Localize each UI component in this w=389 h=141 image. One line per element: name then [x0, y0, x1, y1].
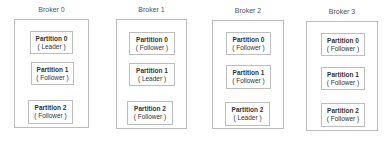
partition-0: Partition 0 ( Follower ): [226, 32, 271, 55]
broker-1: Broker 1 Partition 0 ( Follower ) Partit…: [116, 19, 187, 129]
partition-name: Partition 0: [136, 36, 168, 44]
partition-1: Partition 1 ( Follower ): [226, 65, 271, 89]
partition-name: Partition 1: [327, 71, 359, 79]
partition-role: ( Follower ): [232, 44, 265, 52]
partition-role: ( Leader ): [233, 114, 261, 122]
partition-role: ( Follower ): [34, 112, 67, 120]
partition-name: Partition 1: [37, 66, 69, 74]
partition-role: ( Follower ): [36, 74, 69, 82]
partition-role: ( Follower ): [134, 113, 167, 121]
partition-2: Partition 2 ( Follower ): [28, 100, 73, 124]
partition-0: Partition 0 ( Follower ): [129, 32, 175, 55]
partition-name: Partition 2: [327, 107, 359, 115]
partition-role: ( Leader ): [138, 75, 166, 83]
partition-name: Partition 2: [35, 104, 67, 112]
partition-2: Partition 2 ( Follower ): [127, 101, 173, 125]
broker-label: Broker 2: [213, 7, 283, 14]
broker-label: Broker 0: [15, 6, 88, 13]
partition-name: Partition 2: [232, 106, 264, 114]
partition-2: Partition 2 ( Follower ): [321, 103, 365, 127]
partition-name: Partition 1: [136, 67, 168, 75]
broker-label: Broker 3: [307, 8, 377, 15]
partition-role: ( Follower ): [136, 44, 169, 52]
partition-1: Partition 1 ( Leader ): [129, 63, 175, 86]
partition-role: ( Leader ): [37, 43, 65, 51]
partition-0: Partition 0 ( Follower ): [321, 33, 365, 56]
partition-1: Partition 1 ( Follower ): [31, 62, 74, 85]
partition-role: ( Follower ): [327, 115, 360, 123]
partition-name: Partition 2: [134, 105, 166, 113]
partition-name: Partition 0: [36, 35, 68, 43]
partition-role: ( Follower ): [232, 77, 265, 85]
broker-0: Broker 0 Partition 0 ( Leader ) Partitio…: [14, 19, 89, 128]
partition-role: ( Follower ): [327, 79, 360, 87]
partition-name: Partition 1: [233, 69, 265, 77]
broker-3: Broker 3 Partition 0 ( Follower ) Partit…: [306, 21, 378, 131]
partition-name: Partition 0: [233, 36, 265, 44]
partition-role: ( Follower ): [327, 45, 360, 53]
broker-2: Broker 2 Partition 0 ( Follower ) Partit…: [212, 20, 284, 129]
partition-1: Partition 1 ( Follower ): [321, 67, 365, 90]
partition-name: Partition 0: [327, 37, 359, 45]
partition-2: Partition 2 ( Leader ): [225, 102, 270, 126]
broker-label: Broker 1: [117, 6, 186, 13]
partition-0: Partition 0 ( Leader ): [30, 31, 73, 54]
